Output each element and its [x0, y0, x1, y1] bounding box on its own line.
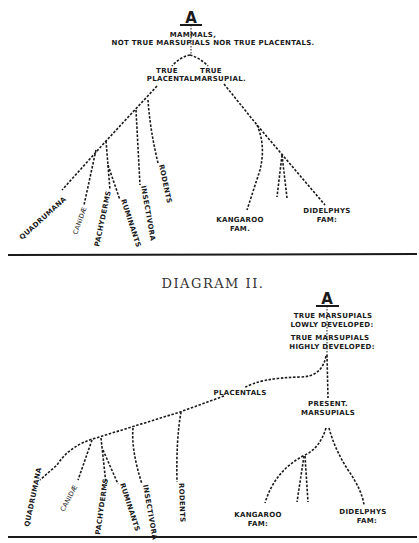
branch2-mid-2 [305, 456, 308, 502]
present-label-1: PRESENT. [308, 400, 348, 408]
leaf2-quadrumana: QUADRUMANA [23, 466, 43, 527]
leaf-quadrumana: QUADRUMANA [18, 195, 68, 242]
branch-mid-1 [277, 155, 282, 197]
leaf-pachyderms: PACHYDERMS [93, 190, 113, 247]
branch2-canidae [78, 440, 92, 480]
branch2-mid-1 [297, 456, 304, 502]
branch-mid-2 [282, 155, 287, 198]
branch2-rodents [177, 412, 181, 482]
branch-placentals-upper [244, 356, 326, 388]
diagram-2: DIAGRAM II. A TRUE MARSUPIALS LOWLY DEVE… [23, 276, 387, 541]
separator-rule [8, 254, 417, 255]
true-placental-1: TRUE [156, 67, 178, 75]
branch2-kangaroo [265, 428, 326, 503]
mammals-label: MAMMALS, [170, 31, 216, 39]
lowly-label-2: LOWLY DEVELOPED: [290, 321, 373, 329]
leaf2-ruminants: RUMINANTS [118, 482, 141, 532]
diagram-canvas: A MAMMALS, NOT TRUE MARSUPIALS NOR TRUE … [0, 0, 419, 543]
leaf-insectivora: INSECTIVORA [139, 185, 157, 242]
leaf-kangaroo-1: KANGAROO [216, 216, 264, 224]
not-true-label: NOT TRUE MARSUPIALS NOR TRUE PLACENTALS. [112, 39, 315, 47]
leaf2-pachyderms: PACHYDERMS [94, 478, 110, 536]
true-marsupial-2: MARSUPIAL. [194, 75, 246, 83]
leaf-didelphys-2: FAM: [317, 216, 337, 224]
leaf-didelphys-1: DIDELPHYS [303, 207, 350, 215]
leaf2-kangaroo-2: FAM: [248, 520, 268, 528]
leaf2-rodents: RODENTS [177, 483, 186, 523]
leaf-kangaroo-2: FAM. [230, 225, 250, 233]
branch-kangaroo [247, 125, 262, 210]
leaf-canidae: CANIDÆ [71, 206, 88, 236]
true-placental-2: PLACENTAL. [147, 75, 198, 83]
branch-to-marsupial [190, 55, 208, 66]
stem-present [327, 355, 328, 398]
leaf2-canidae: CANIDÆ [59, 484, 80, 513]
highly-label-1: TRUE MARSUPIALS [291, 334, 370, 342]
branch-marsupial-main [224, 84, 325, 205]
diagram-1: A MAMMALS, NOT TRUE MARSUPIALS NOR TRUE … [18, 9, 351, 248]
diagram-2-title: DIAGRAM II. [162, 276, 265, 291]
leaf2-didelphys-1: DIDELPHYS [339, 508, 386, 516]
leaf2-didelphys-2: FAM: [357, 517, 377, 525]
branch2-insectivora [133, 428, 142, 484]
present-label-2: MARSUPIALS [301, 409, 355, 417]
lowly-label-1: TRUE MARSUPIALS [294, 312, 373, 320]
branch-insectivora [136, 110, 140, 185]
leaf2-kangaroo-1: KANGAROO [234, 511, 282, 519]
branch2-didelphys [329, 428, 364, 505]
branch2-pachyderms [101, 438, 106, 484]
leaf-ruminants: RUMINANTS [119, 198, 142, 248]
leaf-rodents: RODENTS [157, 164, 173, 205]
leaf2-insectivora: INSECTIVORA [141, 484, 159, 541]
placentals-label: PLACENTALS [214, 389, 267, 397]
branch-rodents [148, 100, 158, 163]
highly-label-2: HIGHLY DEVELOPED: [289, 343, 375, 351]
true-marsupial-1: TRUE [200, 67, 222, 75]
branch-to-placental [172, 55, 190, 66]
